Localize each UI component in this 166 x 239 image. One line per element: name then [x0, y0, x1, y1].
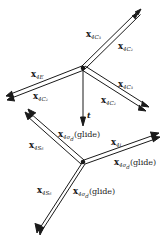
label-upper-right-a: x4C₃ [86, 30, 101, 41]
diagram-canvas: x4C₃ x4C₂ x4E x4C₂ x4C₃ x4C₂ t x4σd(glid… [0, 0, 166, 239]
label-lower-right-b: x4σd(glide) [114, 158, 156, 171]
label-lower-right-b: x4C₂ [101, 96, 116, 107]
label-lower-lower-left-b: x4σd(glide) [73, 187, 115, 200]
translation-vector [81, 68, 86, 126]
label-lower-lower-left-a: x4S₆ [37, 186, 52, 197]
label-glide-top: x4σd(glide) [58, 130, 100, 143]
diagram-svg [0, 0, 166, 239]
label-upper-right-b: x4C₂ [118, 42, 133, 53]
label-lower-right-a: x4i [111, 138, 121, 149]
label-upper-left-a: x4E [31, 70, 44, 81]
label-lower-right-a: x4C₃ [118, 80, 133, 91]
lower-node [81, 160, 86, 165]
label-t: t [87, 111, 91, 119]
label-lower-upper-left: x4S₆ [29, 141, 44, 152]
label-upper-left-b: x4C₂ [33, 92, 48, 103]
upper-node [81, 66, 86, 71]
